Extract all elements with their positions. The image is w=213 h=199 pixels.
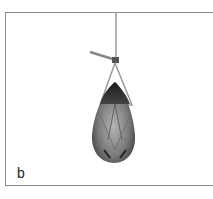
pendant-photo [0, 0, 213, 199]
crystal-drop [92, 82, 135, 163]
panel-label: b [17, 166, 25, 180]
